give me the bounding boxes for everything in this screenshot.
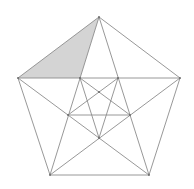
- pentagon-diagram: [0, 0, 194, 189]
- vertex-P5: [98, 137, 100, 139]
- segment-R-BR: [149, 78, 180, 175]
- segment-P1-P5: [80, 78, 99, 138]
- diagram-lines: [18, 17, 180, 175]
- vertex-P4: [129, 114, 131, 116]
- vertex-BR: [148, 174, 150, 176]
- vertex-L: [17, 77, 19, 79]
- vertex-P3: [67, 114, 69, 116]
- segment-P2-P3: [68, 78, 118, 115]
- segment-T-BR: [99, 17, 149, 175]
- segment-T-R: [99, 17, 180, 78]
- segment-P2-P5: [99, 78, 118, 138]
- vertex-BL: [49, 174, 51, 176]
- vertex-P1: [79, 77, 81, 79]
- vertex-T: [98, 16, 100, 18]
- segment-R-BL: [50, 78, 180, 175]
- segment-P1-P4: [80, 78, 130, 115]
- vertex-R: [179, 77, 181, 79]
- vertex-C: [98, 91, 100, 93]
- segment-L-BR: [18, 78, 149, 175]
- segment-BL-L: [18, 78, 50, 175]
- vertex-P2: [117, 77, 119, 79]
